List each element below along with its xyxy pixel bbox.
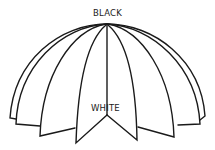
arc-right-4 [107,25,137,140]
black-label: BLACK [93,9,122,18]
arc-right-3 [108,24,174,137]
outer-arc-right-2 [107,24,200,125]
dome-segments [0,0,215,150]
white-label: WHITE [91,104,120,113]
arc-left-4 [76,25,107,143]
arc-left-3 [40,24,106,136]
dome-diagram: BLACK WHITE [0,0,215,150]
outer-arc-right-1 [107,24,205,120]
